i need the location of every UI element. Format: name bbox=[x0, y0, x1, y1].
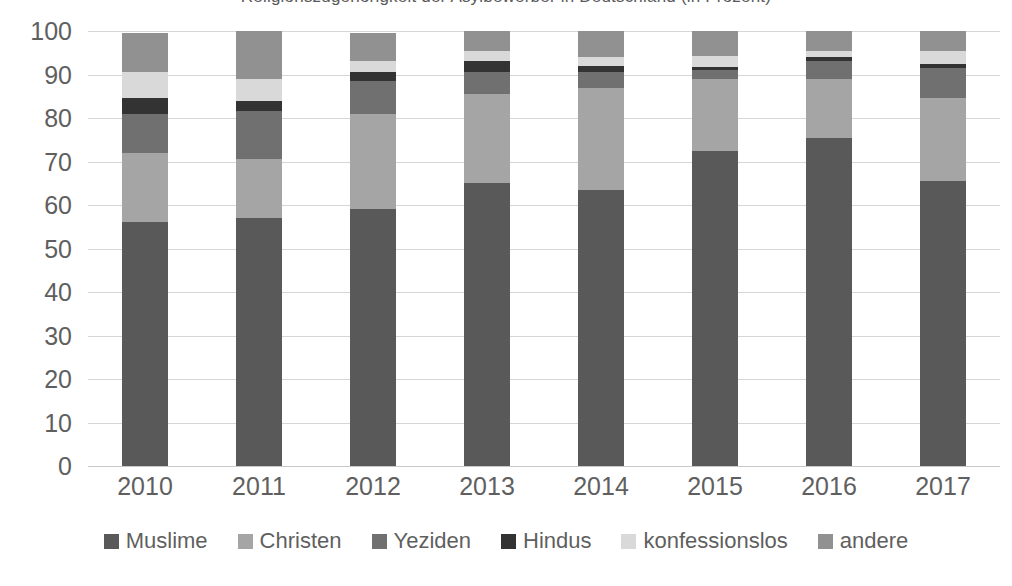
chart-title: Religionszugehörigkeit der Asylbewerber … bbox=[0, 0, 1012, 9]
x-axis-line bbox=[88, 466, 1000, 467]
bar-segment-hindus[interactable] bbox=[236, 101, 282, 112]
y-tick-label: 100 bbox=[30, 19, 72, 44]
bar-stack[interactable] bbox=[578, 31, 624, 466]
y-tick-label: 20 bbox=[44, 367, 72, 392]
bar-segment-muslime[interactable] bbox=[692, 151, 738, 466]
bar-segment-muslime[interactable] bbox=[350, 209, 396, 466]
bar-segment-yeziden[interactable] bbox=[920, 68, 966, 98]
x-tick-label: 2012 bbox=[345, 472, 401, 501]
x-tick-label: 2014 bbox=[573, 472, 629, 501]
legend-item[interactable]: andere bbox=[818, 530, 909, 552]
page-edge bbox=[0, 575, 1012, 586]
bar-segment-christen[interactable] bbox=[806, 79, 852, 138]
legend-label: Muslime bbox=[126, 530, 208, 552]
legend-item[interactable]: Yeziden bbox=[372, 530, 471, 552]
y-tick-label: 70 bbox=[44, 149, 72, 174]
bar-segment-andere[interactable] bbox=[692, 31, 738, 56]
x-tick-label: 2010 bbox=[117, 472, 173, 501]
bar-segment-christen[interactable] bbox=[692, 79, 738, 151]
bar-segment-andere[interactable] bbox=[464, 31, 510, 51]
legend-item[interactable]: Hindus bbox=[501, 530, 591, 552]
bar-segment-konfessionslos[interactable] bbox=[578, 57, 624, 66]
y-tick-label: 60 bbox=[44, 193, 72, 218]
bar-segment-christen[interactable] bbox=[236, 159, 282, 218]
y-axis: 0102030405060708090100 bbox=[0, 31, 80, 466]
bar-segment-christen[interactable] bbox=[350, 114, 396, 210]
legend-item[interactable]: Muslime bbox=[104, 530, 208, 552]
bar-segment-christen[interactable] bbox=[578, 88, 624, 190]
y-tick-label: 0 bbox=[58, 454, 72, 479]
bar-segment-hindus[interactable] bbox=[578, 66, 624, 73]
bar-segment-hindus[interactable] bbox=[920, 64, 966, 68]
bar-stack[interactable] bbox=[692, 31, 738, 466]
y-tick-label: 50 bbox=[44, 236, 72, 261]
bar-group bbox=[236, 31, 282, 466]
bar-stack[interactable] bbox=[920, 31, 966, 466]
bar-stack[interactable] bbox=[350, 31, 396, 466]
bar-segment-andere[interactable] bbox=[920, 31, 966, 51]
bar-segment-christen[interactable] bbox=[122, 153, 168, 223]
legend-label: Yeziden bbox=[394, 530, 471, 552]
bar-segment-christen[interactable] bbox=[464, 94, 510, 183]
bar-segment-konfessionslos[interactable] bbox=[920, 51, 966, 64]
bar-segment-andere[interactable] bbox=[122, 33, 168, 72]
bar-segment-konfessionslos[interactable] bbox=[464, 51, 510, 62]
bar-stack[interactable] bbox=[464, 31, 510, 466]
bar-segment-muslime[interactable] bbox=[806, 138, 852, 466]
bar-segment-konfessionslos[interactable] bbox=[350, 61, 396, 72]
legend-item[interactable]: konfessionslos bbox=[621, 530, 787, 552]
bar-segment-yeziden[interactable] bbox=[122, 114, 168, 153]
x-tick-label: 2013 bbox=[459, 472, 515, 501]
bar-group bbox=[920, 31, 966, 466]
legend-swatch-icon bbox=[372, 534, 387, 549]
bar-segment-yeziden[interactable] bbox=[464, 72, 510, 94]
bar-segment-yeziden[interactable] bbox=[236, 111, 282, 159]
bar-segment-christen[interactable] bbox=[920, 98, 966, 181]
x-axis: 20102011201220132014201520162017 bbox=[88, 472, 1000, 512]
bar-segment-andere[interactable] bbox=[578, 31, 624, 57]
bar-segment-konfessionslos[interactable] bbox=[236, 79, 282, 101]
bar-segment-yeziden[interactable] bbox=[806, 61, 852, 78]
bar-segment-muslime[interactable] bbox=[236, 218, 282, 466]
bar-segment-yeziden[interactable] bbox=[578, 72, 624, 87]
bar-stack[interactable] bbox=[236, 31, 282, 466]
legend-swatch-icon bbox=[501, 534, 516, 549]
y-tick-label: 40 bbox=[44, 280, 72, 305]
legend-label: Hindus bbox=[523, 530, 591, 552]
bar-segment-muslime[interactable] bbox=[122, 222, 168, 466]
y-tick-label: 10 bbox=[44, 410, 72, 435]
x-tick-label: 2017 bbox=[915, 472, 971, 501]
bar-segment-yeziden[interactable] bbox=[692, 70, 738, 79]
bar-segment-yeziden[interactable] bbox=[350, 81, 396, 114]
bar-segment-hindus[interactable] bbox=[122, 98, 168, 113]
legend-swatch-icon bbox=[104, 534, 119, 549]
bar-stack[interactable] bbox=[806, 31, 852, 466]
bar-segment-andere[interactable] bbox=[350, 33, 396, 61]
y-tick-label: 90 bbox=[44, 62, 72, 87]
y-tick-label: 80 bbox=[44, 106, 72, 131]
bar-stack[interactable] bbox=[122, 31, 168, 466]
bar-segment-hindus[interactable] bbox=[464, 61, 510, 72]
legend-label: Christen bbox=[260, 530, 342, 552]
bar-group bbox=[692, 31, 738, 466]
bar-segment-muslime[interactable] bbox=[920, 181, 966, 466]
bar-segment-hindus[interactable] bbox=[806, 57, 852, 61]
plot-area bbox=[88, 31, 1000, 466]
bar-segment-andere[interactable] bbox=[806, 31, 852, 51]
stacked-bar-chart: Religionszugehörigkeit der Asylbewerber … bbox=[0, 0, 1012, 586]
bar-group bbox=[122, 31, 168, 466]
bar-segment-konfessionslos[interactable] bbox=[806, 51, 852, 58]
bar-segment-konfessionslos[interactable] bbox=[692, 56, 738, 67]
bars-layer bbox=[88, 31, 1000, 466]
bar-segment-muslime[interactable] bbox=[464, 183, 510, 466]
x-tick-label: 2011 bbox=[232, 472, 286, 501]
legend-swatch-icon bbox=[238, 534, 253, 549]
legend-item[interactable]: Christen bbox=[238, 530, 342, 552]
bar-segment-konfessionslos[interactable] bbox=[122, 72, 168, 98]
bar-segment-hindus[interactable] bbox=[350, 72, 396, 81]
bar-segment-andere[interactable] bbox=[236, 31, 282, 79]
x-tick-label: 2016 bbox=[801, 472, 857, 501]
bar-segment-hindus[interactable] bbox=[692, 67, 738, 70]
bar-segment-muslime[interactable] bbox=[578, 190, 624, 466]
chart-legend: MuslimeChristenYezidenHinduskonfessionsl… bbox=[0, 530, 1012, 552]
